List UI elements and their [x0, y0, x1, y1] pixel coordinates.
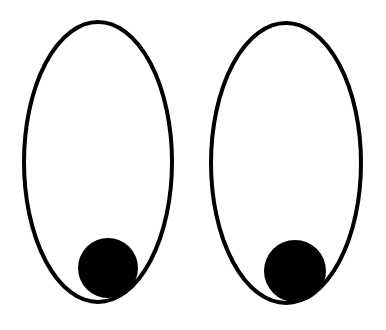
left-eye-pupil — [78, 238, 138, 298]
eyes-illustration — [0, 0, 386, 330]
cartoon-eyes-canvas — [0, 0, 386, 330]
right-eye — [211, 23, 361, 303]
left-eye — [24, 22, 172, 302]
right-eye-pupil — [264, 240, 326, 302]
